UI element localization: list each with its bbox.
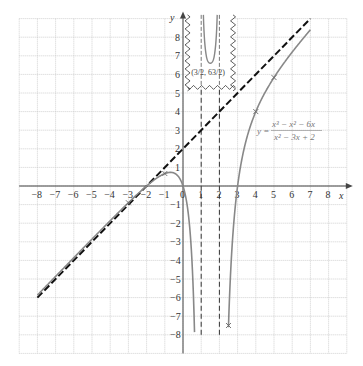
y-tick-label: 4 [175, 106, 180, 117]
x-tick-label: −6 [68, 189, 79, 200]
x-tick-label: 1 [198, 189, 203, 200]
equation-denominator: x² − 3x + 2 [273, 132, 315, 142]
equation-prefix: y = [256, 126, 269, 136]
y-tick-label: 1 [175, 162, 180, 173]
x-tick-label: −5 [86, 189, 97, 200]
inset-broken-axis-box: (3/2, 63/2) [185, 15, 236, 91]
y-axis-label: y [169, 12, 175, 23]
left-branch-curve [37, 172, 194, 332]
y-tick-label: −8 [170, 329, 181, 340]
axes [19, 12, 353, 354]
x-axis-arrow-icon [346, 183, 353, 189]
y-tick-label: 8 [175, 32, 180, 43]
x-axis-label: x [338, 190, 344, 201]
x-tick-label: −8 [31, 189, 42, 200]
x-tick-label: −1 [159, 189, 170, 200]
x-tick-label: −3 [122, 189, 133, 200]
x-tick-label: 4 [253, 189, 258, 200]
y-tick-label: −7 [170, 311, 181, 322]
y-tick-label: 5 [175, 88, 180, 99]
x-tick-label: 2 [216, 189, 221, 200]
y-axis-arrow-icon [180, 12, 186, 19]
y-tick-label: 6 [175, 69, 180, 80]
function-curve [37, 30, 310, 332]
equation-label: y = x³ − x² − 6x x² − 3x + 2 [256, 119, 322, 142]
y-tick-label: −3 [170, 236, 181, 247]
y-tick-label: −4 [170, 255, 181, 266]
y-tick-label: −2 [170, 218, 181, 229]
x-tick-label: −7 [50, 189, 61, 200]
x-tick-label: 7 [307, 189, 312, 200]
x-tick-label: −4 [104, 189, 115, 200]
inset-min-point-label: (3/2, 63/2) [191, 68, 225, 77]
y-tick-label: 3 [175, 125, 180, 136]
x-tick-label: 5 [271, 189, 276, 200]
rational-function-graph: (3/2, 63/2) −8−7−6−5−4−3−2−1012345678876… [0, 0, 363, 366]
equation-numerator: x³ − x² − 6x [271, 119, 315, 129]
x-tick-label: 6 [289, 189, 294, 200]
x-tick-label: 8 [326, 189, 331, 200]
y-tick-label: 7 [175, 50, 180, 61]
y-tick-label: −5 [170, 274, 181, 285]
y-tick-label: −1 [170, 199, 181, 210]
y-tick-label: −6 [170, 292, 181, 303]
